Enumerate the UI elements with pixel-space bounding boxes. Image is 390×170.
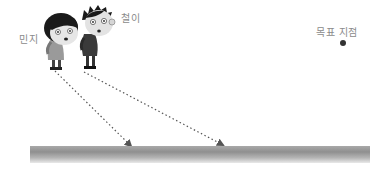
ground-bar (30, 146, 370, 163)
target-point-label: 목표 지점 (316, 24, 358, 39)
cheol-label: 철이 (121, 10, 140, 25)
minji-trajectory-arrow (55, 71, 131, 146)
boy-cheol-figure (81, 5, 115, 69)
target-point-dot (340, 40, 346, 46)
minji-label: 민지 (19, 31, 38, 46)
girl-minji-figure (44, 13, 78, 70)
cheol-trajectory-arrow (84, 72, 223, 145)
